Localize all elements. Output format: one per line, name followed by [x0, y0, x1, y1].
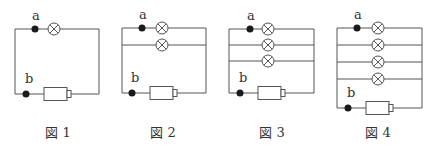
- lamp-icon: [156, 22, 168, 34]
- terminal-b-label: b: [25, 71, 33, 86]
- lamp-icon: [262, 39, 274, 51]
- terminal-a-label: a: [139, 7, 147, 22]
- lamp-icon: [372, 73, 384, 85]
- figure-caption: 図 2: [150, 125, 175, 140]
- terminal-a-dot: [247, 26, 254, 33]
- lamp-icon: [48, 23, 60, 35]
- battery-icon: [258, 87, 285, 100]
- terminal-a-label: a: [32, 8, 40, 23]
- figure-caption: 図 1: [45, 125, 70, 140]
- terminal-b-label: b: [131, 70, 139, 85]
- terminal-b-dot: [23, 91, 30, 98]
- figure-caption: 図 4: [365, 125, 390, 140]
- circuit-fig3: ab図 3: [229, 8, 314, 140]
- terminal-b-label: b: [347, 85, 355, 100]
- terminal-b-label: b: [239, 70, 247, 85]
- battery-icon: [44, 88, 71, 101]
- figure-caption: 図 3: [259, 125, 284, 140]
- lamp-icon: [372, 22, 384, 34]
- terminal-a-dot: [354, 25, 361, 32]
- circuit-fig2: ab図 2: [122, 7, 206, 140]
- terminal-a-label: a: [354, 7, 362, 22]
- lamp-icon: [156, 39, 168, 51]
- circuit-fig1: ab図 1: [15, 8, 99, 140]
- lamp-icon: [262, 23, 274, 35]
- circuit-fig4: ab図 4: [337, 7, 422, 140]
- lamp-icon: [372, 56, 384, 68]
- terminal-b-dot: [345, 105, 352, 112]
- terminal-a-label: a: [247, 8, 255, 23]
- lamp-icon: [262, 55, 274, 67]
- terminal-a-dot: [32, 26, 39, 33]
- terminal-a-dot: [139, 25, 146, 32]
- battery-icon: [150, 87, 177, 100]
- lamp-icon: [372, 39, 384, 51]
- circuit-diagrams: ab図 1ab図 2ab図 3ab図 4: [0, 0, 434, 146]
- terminal-b-dot: [129, 90, 136, 97]
- battery-icon: [366, 102, 393, 115]
- terminal-b-dot: [237, 90, 244, 97]
